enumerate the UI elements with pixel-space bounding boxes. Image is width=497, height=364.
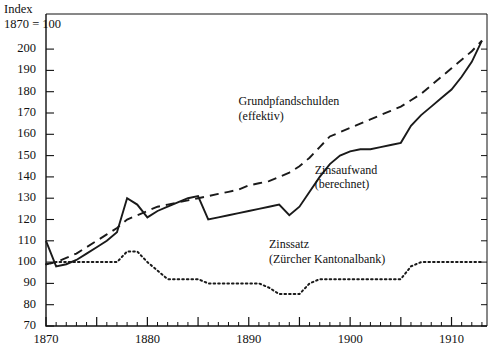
y-tick-label: 140 [2, 169, 36, 184]
series-annotation: Zinsaufwand [315, 163, 378, 178]
axis-ticks [46, 49, 487, 326]
x-tick-label: 1900 [327, 332, 373, 347]
y-tick-label: 170 [2, 105, 36, 120]
series-line-1 [46, 41, 482, 267]
series-annotation: (berechnet) [315, 177, 370, 192]
y-tick-label: 190 [2, 62, 36, 77]
y-tick-label: 100 [2, 254, 36, 269]
y-tick-label: 130 [2, 190, 36, 205]
series-annotation: Zinssatz [269, 237, 309, 252]
y-tick-label: 110 [2, 233, 36, 248]
y-tick-label: 150 [2, 148, 36, 163]
series-annotation: (effektiv) [239, 109, 284, 124]
x-tick-label: 1870 [23, 332, 69, 347]
x-tick-label: 1910 [429, 332, 475, 347]
y-tick-label: 200 [2, 41, 36, 56]
y-tick-label: 90 [2, 275, 36, 290]
series-line-0 [46, 41, 482, 265]
plot-area [0, 0, 497, 364]
x-tick-label: 1880 [124, 332, 170, 347]
series-annotation: (Zürcher Kantonalbank) [269, 252, 385, 267]
y-tick-label: 160 [2, 126, 36, 141]
y-tick-label: 120 [2, 212, 36, 227]
x-tick-label: 1890 [226, 332, 272, 347]
series-annotation: Grundpfandschulden [239, 94, 340, 109]
y-tick-label: 80 [2, 297, 36, 312]
y-tick-label: 70 [2, 318, 36, 333]
series-line-2 [46, 251, 482, 294]
axis-lines [46, 14, 487, 326]
series-lines [46, 41, 482, 294]
chart-container: Index 1870 = 100 20019018017016015014013… [0, 0, 497, 364]
y-tick-label: 180 [2, 84, 36, 99]
